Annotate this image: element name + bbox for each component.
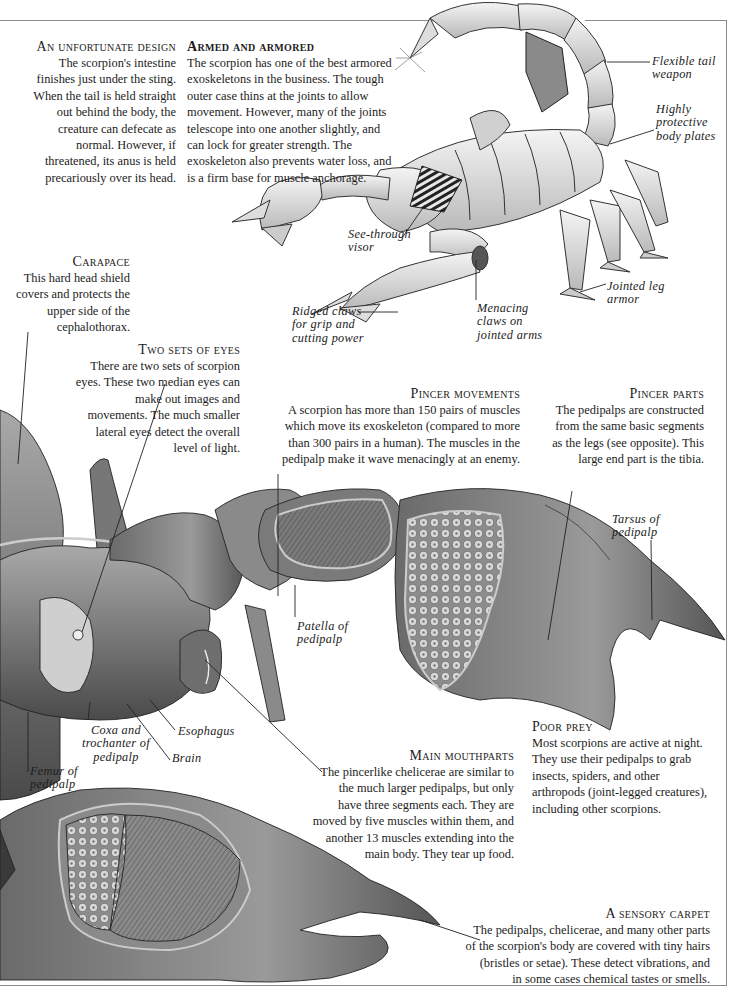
section-line: of the scorpion's body are covered with … [460,938,710,954]
section-line: telescope into one another slightly, and [187,121,407,137]
section-pincer-movements: Pincer movements A scorpion has more tha… [268,385,520,468]
section-line: make out images and [60,391,240,407]
section-main-mouthparts: Main mouthparts The pincerlike chelicera… [300,747,514,862]
section-line: finishes just under the sting. [8,71,176,87]
section-line: is a firm base for muscle anchorage. [187,170,407,186]
section-line: The pedipalps, chelicerae, and many othe… [460,922,710,938]
section-line: main body. They tear up food. [300,846,514,862]
section-line: They use their pedipalps to grab [532,751,722,767]
label-esophagus: Esophagus [178,725,235,738]
section-unfortunate-design: An unfortunate design The scorpion's int… [8,38,176,186]
section-line: out behind the body, the [8,104,176,120]
section-line: precariously over its head. [8,170,176,186]
label-menacing-claws: Menacing claws on jointed arms [477,302,542,342]
section-line: moved by five muscles within them, and [300,813,514,829]
section-line: as the legs (see opposite). This [530,435,704,451]
section-line: pedipalp make it wave menacingly at an e… [268,451,520,467]
label-flexible-tail: Flexible tail weapon [652,55,716,82]
label-jointed-leg-armor: Jointed leg armor [607,280,665,307]
section-line: movement. However, many of the joints [187,104,407,120]
section-line: outer case thins at the joints to allow [187,88,407,104]
section-line: including other scorpions. [532,801,722,817]
section-two-sets-of-eyes: Two sets of eyes There are two sets of s… [60,341,240,456]
section-heading: Carapace [8,253,130,270]
section-line: covers and protects the [8,286,130,302]
section-line: movements. The much smaller [60,407,240,423]
section-heading: Armed and armored [187,38,407,55]
section-line: have three segments each. They are [300,797,514,813]
section-line: normal. However, if [8,137,176,153]
section-line: upper side of the [8,303,130,319]
section-line: The scorpion's intestine [8,55,176,71]
section-line: another 13 muscles extending into the [300,830,514,846]
label-body-plates: Highly protective body plates [656,103,716,143]
section-line: large end part is the tibia. [530,451,704,467]
section-line: level of light. [60,440,240,456]
section-line: exoskeletons in the business. The tough [187,71,407,87]
section-line: The pedipalps are constructed [530,402,704,418]
label-ridged-claws: Ridged claws for grip and cutting power [292,305,364,345]
section-poor-prey: Poor prey Most scorpions are active at n… [532,718,722,817]
label-patella-of-pedipalp: Patella of pedipalp [297,620,348,647]
label-tarsus-of-pedipalp: Tarsus of pedipalp [612,513,660,540]
section-armed-and-armored: Armed and armored The scorpion has one o… [187,38,407,186]
section-heading: Two sets of eyes [60,341,240,358]
section-line: A scorpion has more than 150 pairs of mu… [268,402,520,418]
section-heading: Pincer parts [530,385,704,402]
section-line: eyes. These two median eyes can [60,374,240,390]
section-heading: Pincer movements [268,385,520,402]
section-line: The scorpion has one of the best armored [187,55,407,71]
section-heading: A sensory carpet [460,905,710,922]
label-coxa-and-trochanter: Coxa and trochanter of pedipalp [82,724,150,764]
section-line: exoskeleton also prevents water loss, an… [187,153,407,169]
section-line: When the tail is held straight [8,88,176,104]
section-line: insects, spiders, and other [532,768,722,784]
section-line: in some cases chemical tastes or smells. [460,971,710,987]
section-heading: An unfortunate design [8,38,176,55]
section-line: There are two sets of scorpion [60,358,240,374]
section-line: from the same basic segments [530,418,704,434]
section-pincer-parts: Pincer parts The pedipalps are construct… [530,385,704,468]
section-line: than 300 pairs in a human). The muscles … [268,435,520,451]
section-line: which move its exoskeleton (compared to … [268,418,520,434]
label-brain: Brain [172,752,202,765]
section-line: The pincerlike chelicerae are similar to [300,764,514,780]
section-heading: Main mouthparts [300,747,514,764]
section-line: threatened, its anus is held [8,153,176,169]
section-line: lateral eyes detect the overall [60,424,240,440]
section-line: can lock for greater strength. The [187,137,407,153]
section-line: the much larger pedipalps, but only [300,780,514,796]
section-line: Most scorpions are active at night. [532,735,722,751]
section-line: arthropods (joint-legged creatures), [532,784,722,800]
section-line: cephalothorax. [8,319,130,335]
label-femur-of-pedipalp: Femur of pedipalp [30,765,78,792]
section-line: This hard head shield [8,270,130,286]
section-line: (bristles or setae). These detect vibrat… [460,955,710,971]
section-heading: Poor prey [532,718,722,735]
section-sensory-carpet: A sensory carpet The pedipalps, chelicer… [460,905,710,988]
label-see-through-visor: See-through visor [348,228,411,255]
section-carapace: Carapace This hard head shield covers an… [8,253,130,336]
section-line: creature can defecate as [8,121,176,137]
